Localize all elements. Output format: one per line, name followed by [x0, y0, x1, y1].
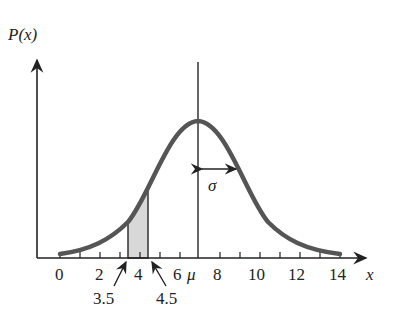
mu-label: μ — [186, 265, 196, 284]
tick-label: 4 — [134, 265, 143, 284]
x-ticks — [60, 252, 340, 258]
y-axis-label: P(x) — [7, 25, 38, 44]
sigma-label: σ — [208, 176, 217, 195]
arrow-3-5 — [114, 262, 126, 286]
tick-label: 10 — [248, 265, 265, 284]
tick-label: 14 — [329, 265, 347, 284]
tick-label: 8 — [213, 265, 222, 284]
tick-label: 6 — [173, 265, 182, 284]
tick-label: 2 — [95, 265, 104, 284]
tick-label: 12 — [288, 265, 305, 284]
chart-canvas: P(x) x σ 0 2 4 6 μ 8 10 12 14 3.5 4.5 — [0, 0, 395, 320]
bound-high-label: 4.5 — [156, 289, 177, 308]
bound-low-label: 3.5 — [93, 289, 114, 308]
tick-label: 0 — [55, 265, 64, 284]
normal-curve — [60, 121, 340, 254]
x-axis-label: x — [365, 265, 374, 284]
arrow-4-5 — [152, 262, 166, 286]
normal-distribution-figure: P(x) x σ 0 2 4 6 μ 8 10 12 14 3.5 4.5 — [0, 0, 395, 320]
